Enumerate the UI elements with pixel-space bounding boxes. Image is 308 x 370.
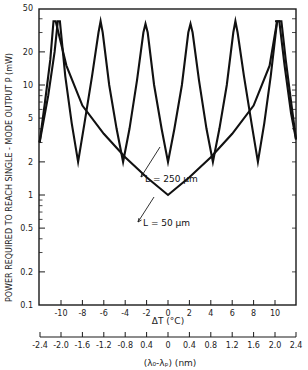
x-tick-label: 8 [251, 309, 256, 318]
x2-tick-label: 1.2 [226, 341, 239, 350]
x-tick-label: 10 [270, 309, 280, 318]
x2-tick-label: 0 [165, 341, 170, 350]
y-tick-label: 1 [28, 191, 33, 200]
x2-tick-label: -1.2 [96, 341, 112, 350]
series-l250-line [40, 21, 296, 162]
x2-axis-title: (λ₀-λₚ) (nm) [144, 358, 197, 368]
x2-tick-label: 1.6 [247, 341, 260, 350]
x2-tick-label: 0.4 [183, 341, 196, 350]
x-tick-label: 2 [187, 309, 192, 318]
x2-tick-label: -0.8 [117, 341, 133, 350]
x2-tick-label: -1.6 [75, 341, 91, 350]
y-tick-label: 0.1 [20, 301, 33, 310]
x-tick-label: -4 [121, 309, 129, 318]
x-tick-label: -6 [100, 309, 108, 318]
x2-tick-label: -2.4 [32, 341, 48, 350]
y-tick-label: 50 [23, 4, 33, 13]
x2-tick-label: 0.8 [204, 341, 217, 350]
annotation-l50: L = 50 μm [138, 197, 190, 228]
annotation-l50-label: L = 50 μm [143, 218, 190, 228]
y-tick-label: 20 [23, 48, 33, 57]
series-l50-line [40, 21, 296, 195]
y-axis-title: POWER REQUIRED TO REACH SINGLE - MODE OU… [5, 53, 14, 302]
y-tick-label: 10 [23, 81, 33, 90]
x-axis-title: ΔT (°C) [152, 316, 184, 326]
y-tick-label: 2 [28, 158, 33, 167]
data-series [40, 21, 296, 195]
x2-tick-label: 2.0 [269, 341, 282, 350]
x-tick-label: -2 [143, 309, 151, 318]
secondary-x-axis: -2.4-2.0-1.6-1.2-0.80.400.40.81.21.62.02… [32, 332, 302, 350]
x-tick-label: 4 [208, 309, 213, 318]
x-tick-label: 6 [230, 309, 235, 318]
y-tick-label: 5 [28, 114, 33, 123]
x2-tick-label: 2.4 [290, 341, 303, 350]
y-tick-label: 0.2 [20, 268, 33, 277]
y-tick-label: 0.5 [20, 224, 33, 233]
x-tick-label: -10 [54, 309, 67, 318]
x2-tick-label: -2.0 [53, 341, 69, 350]
x2-tick-label: 0.4 [140, 341, 153, 350]
annotation-l250-label: L = 250 μm [145, 174, 198, 184]
x-tick-label: -8 [78, 309, 86, 318]
chart: 0.10.20.5125102050 -10-8-6-4-20246810 -2… [0, 0, 308, 370]
